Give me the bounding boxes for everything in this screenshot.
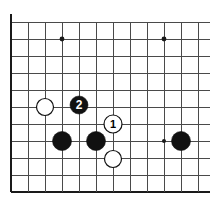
goban-grid xyxy=(0,0,210,204)
star-point-lower-right-icon xyxy=(162,139,166,143)
star-point-upper-left-icon xyxy=(60,37,65,42)
go-board-diagram: 12 xyxy=(0,0,210,204)
black-stone xyxy=(70,96,88,114)
white-stone xyxy=(37,99,54,116)
black-stone xyxy=(53,132,72,151)
black-stone xyxy=(172,132,191,151)
white-stone xyxy=(104,115,122,133)
black-stone xyxy=(87,132,106,151)
white-stone xyxy=(105,151,122,168)
star-point-upper-right-icon xyxy=(162,37,167,42)
